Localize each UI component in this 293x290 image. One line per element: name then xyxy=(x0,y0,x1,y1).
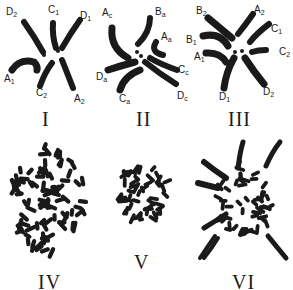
panel-numeral-4: IV xyxy=(38,270,61,290)
label-panel1-A2: A2 xyxy=(74,94,85,105)
label-panel3-A1: A1 xyxy=(194,52,205,63)
panel-numeral-5: V xyxy=(134,250,149,272)
panel-5-chromosomes xyxy=(118,166,171,222)
panel-numeral-1: I xyxy=(42,107,50,129)
panel-numeral-3: III xyxy=(228,107,251,129)
label-panel2-Ba: Ba xyxy=(155,7,166,18)
label-panel1-D1: D1 xyxy=(80,11,91,22)
panel-numeral-6: VI xyxy=(232,270,255,290)
label-panel3-C2: C2 xyxy=(279,47,290,58)
label-panel1-D2: D2 xyxy=(6,7,17,18)
label-panel3-A2: A2 xyxy=(254,5,265,16)
panel-1-chromosomes xyxy=(12,20,80,88)
label-panel3-C1: C1 xyxy=(271,24,282,35)
label-panel3-B1: B1 xyxy=(186,35,197,46)
panel-numeral-2: II xyxy=(136,107,151,129)
label-panel3-B2: B2 xyxy=(196,6,207,17)
panel-2-chromosomes xyxy=(108,18,177,90)
chromosome-figure: D2 C1 D1 A1 C2 A2 I Ac Ba Aa Da Cc Ca Dc… xyxy=(0,0,293,290)
label-panel2-Cc: Cc xyxy=(178,65,189,76)
label-panel3-D1: D1 xyxy=(219,92,230,103)
label-panel1-C1: C1 xyxy=(48,5,59,16)
label-panel3-D2: D2 xyxy=(263,87,274,98)
label-panel2-Da: Da xyxy=(96,72,107,83)
chromosome-drawings xyxy=(0,0,293,290)
label-panel2-Ca: Ca xyxy=(119,94,130,105)
panel-6-chromosomes xyxy=(198,142,286,258)
label-panel1-C2: C2 xyxy=(36,88,47,99)
label-panel2-Dc: Dc xyxy=(177,91,188,102)
label-panel2-Aa: Aa xyxy=(161,32,172,43)
label-panel2-Ac: Ac xyxy=(102,8,112,19)
panel-4-chromosomes xyxy=(12,144,86,257)
panel-3-chromosomes xyxy=(203,14,269,88)
label-panel1-A1: A1 xyxy=(4,74,15,85)
